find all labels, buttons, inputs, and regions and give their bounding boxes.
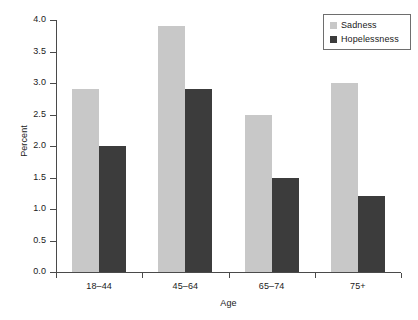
y-axis-tick-label: 1.0 [2, 204, 46, 213]
y-axis-tick-label: 2.5 [2, 110, 46, 119]
x-axis-tick [229, 273, 230, 278]
legend-swatch-icon [330, 22, 337, 29]
x-axis-tick [142, 273, 143, 278]
y-axis-tick-label-wrap: 0.0 [0, 272, 56, 273]
y-axis-tick-label-wrap: 2.0 [0, 146, 56, 147]
bar-sadness-0 [72, 89, 99, 272]
x-axis-tick [56, 273, 57, 278]
bar-hopelessness-1 [185, 89, 212, 272]
y-axis-tick-label: 4.0 [2, 15, 46, 24]
bar-hopelessness-2 [272, 178, 299, 273]
bar-sadness-3 [331, 83, 358, 272]
y-axis-tick-label: 3.5 [2, 47, 46, 56]
x-axis-group-label: 45–64 [142, 281, 228, 291]
legend-item-sadness[interactable]: Sadness [330, 19, 410, 32]
bar-sadness-2 [245, 115, 272, 273]
y-axis-tick-label: 3.0 [2, 78, 46, 87]
legend-swatch-icon [330, 36, 337, 43]
y-axis-tick-label: 2.0 [2, 141, 46, 150]
legend-item-label: Hopelessness [341, 35, 399, 44]
legend-item-hopelessness[interactable]: Hopelessness [330, 33, 410, 46]
legend-item-label: Sadness [341, 21, 377, 30]
y-axis-tick-label-wrap: 2.5 [0, 115, 56, 116]
x-axis-tick [315, 273, 316, 278]
bar-hopelessness-3 [358, 196, 385, 272]
bar-chart: Percent 0.00.51.01.52.02.53.03.54.0 18–4… [0, 0, 418, 320]
bar-hopelessness-0 [99, 146, 126, 272]
plot-area [56, 20, 401, 272]
y-axis-tick-label-wrap: 0.5 [0, 241, 56, 242]
y-axis-tick-label: 0.5 [2, 236, 46, 245]
y-axis-tick-label-wrap: 3.0 [0, 83, 56, 84]
x-axis-group-label: 65–74 [229, 281, 315, 291]
x-axis-tick [401, 273, 402, 278]
y-axis-tick-label-wrap: 4.0 [0, 20, 56, 21]
x-axis-group-label: 75+ [315, 281, 401, 291]
bar-sadness-1 [158, 26, 185, 272]
y-axis-tick-label: 1.5 [2, 173, 46, 182]
y-axis-tick-label-wrap: 3.5 [0, 52, 56, 53]
x-axis-title: Age [56, 298, 401, 308]
chart-legend: SadnessHopelessness [323, 14, 411, 50]
y-axis-tick-label: 0.0 [2, 267, 46, 276]
x-axis-group-label: 18–44 [56, 281, 142, 291]
y-axis-tick-label-wrap: 1.0 [0, 209, 56, 210]
y-axis-tick-label-wrap: 1.5 [0, 178, 56, 179]
